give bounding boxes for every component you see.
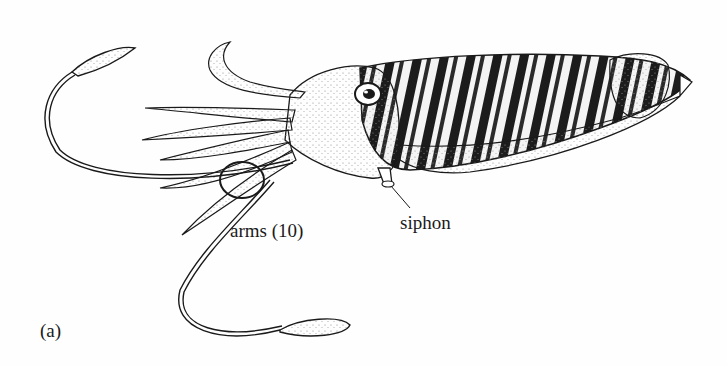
siphon-label: siphon — [400, 212, 451, 234]
panel-label: (a) — [40, 320, 61, 342]
mantle — [360, 54, 692, 173]
arms — [142, 42, 305, 235]
squid-diagram: arms (10) siphon (a) — [0, 0, 727, 366]
head — [285, 66, 399, 187]
arms-label: arms (10) — [230, 220, 303, 242]
squid-illustration — [0, 0, 727, 366]
siphon-leader-line — [391, 186, 410, 208]
